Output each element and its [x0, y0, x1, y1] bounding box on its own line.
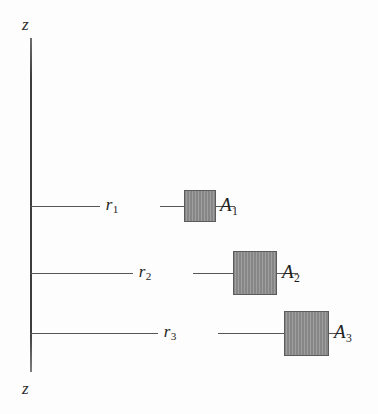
z-axis-bottom-label: z	[22, 380, 29, 397]
radius-label-2: r2	[139, 263, 152, 282]
area-label-subscript: 2	[294, 271, 300, 284]
leader-line-left	[30, 206, 100, 207]
z-axis-top-label: z	[22, 16, 29, 33]
radius-label-subscript: 3	[171, 330, 177, 342]
z-axis-line	[30, 38, 32, 372]
area-patch-3	[284, 311, 329, 356]
radius-label-subscript: 2	[146, 270, 152, 282]
radius-label-1: r1	[106, 196, 119, 215]
radius-label-3: r3	[164, 323, 177, 342]
area-patch-1	[184, 190, 216, 222]
area-label-subscript: 1	[232, 204, 238, 217]
leader-line-left	[30, 333, 158, 334]
radius-label-subscript: 1	[113, 203, 119, 215]
leader-line-left	[30, 273, 133, 274]
area-label-subscript: 3	[346, 331, 352, 344]
radiation-view-factor-diagram: z z r1A1r2A2r3A3	[0, 0, 378, 414]
area-label-3: A3	[334, 322, 352, 344]
area-label-1: A1	[220, 195, 238, 217]
area-label-2: A2	[282, 262, 300, 284]
area-patch-2	[233, 251, 277, 295]
